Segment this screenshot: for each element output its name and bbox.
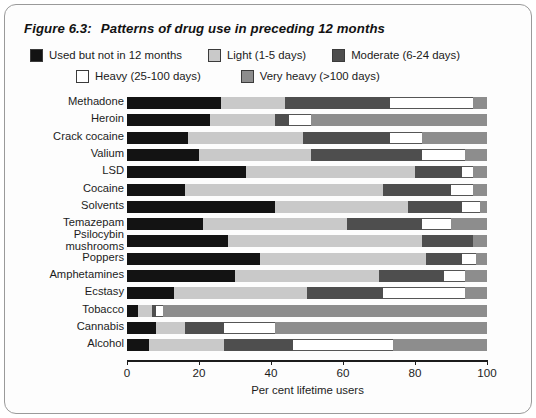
bar-segment-very_heavy	[275, 322, 487, 334]
bar-row	[127, 305, 487, 317]
bar-segment-light	[210, 114, 275, 126]
legend-label-light: Light (1-5 days)	[227, 49, 306, 61]
bar-segment-heavy	[451, 184, 473, 196]
category-label: Poppers	[24, 252, 124, 263]
bar-segment-moderate	[426, 253, 462, 265]
category-label: Crack cocaine	[24, 131, 124, 142]
bar-segment-heavy	[462, 201, 480, 213]
bar-row	[127, 201, 487, 213]
legend-item-very-heavy: Very heavy (>100 days)	[241, 70, 380, 83]
bar-segment-moderate	[408, 201, 462, 213]
bar-row	[127, 149, 487, 161]
bar-segment-used	[127, 166, 246, 178]
x-tick-label: 80	[409, 366, 422, 379]
bar-segment-very_heavy	[311, 114, 487, 126]
legend-item-light: Light (1-5 days)	[208, 49, 306, 62]
bar-segment-heavy	[444, 270, 466, 282]
bar-segment-heavy	[289, 114, 311, 126]
bar-segment-used	[127, 253, 260, 265]
x-axis-title: Per cent lifetime users	[127, 384, 488, 396]
category-label: Heroin	[24, 113, 124, 124]
figure-number: Figure 6.3:	[24, 21, 92, 36]
bar-segment-heavy	[390, 97, 473, 109]
legend-swatch-moderate	[332, 49, 345, 62]
bar-row	[127, 287, 487, 299]
bar-row	[127, 166, 487, 178]
category-label: Temazepam	[24, 217, 124, 228]
bar-segment-very_heavy	[473, 184, 487, 196]
category-label: Alcohol	[24, 338, 124, 349]
bar-segment-heavy	[422, 149, 465, 161]
bar-segment-moderate	[224, 339, 292, 351]
legend-row-top: Used but not in 12 months Light (1-5 day…	[30, 47, 460, 63]
bar-segment-very_heavy	[422, 132, 487, 144]
bar-segment-light	[275, 201, 408, 213]
bar-segment-moderate	[383, 184, 451, 196]
bar-segment-moderate	[285, 97, 389, 109]
bar-segment-used	[127, 270, 235, 282]
chart-legend: Used but not in 12 months Light (1-5 day…	[24, 47, 510, 89]
bar-segment-heavy	[422, 218, 451, 230]
bar-segment-light	[246, 166, 415, 178]
x-tick-label: 100	[477, 366, 496, 379]
bar-segment-used	[127, 97, 221, 109]
bar-segment-moderate	[275, 114, 289, 126]
bar-segment-light	[221, 97, 286, 109]
bar-segment-light	[185, 184, 383, 196]
bar-segment-heavy	[156, 305, 163, 317]
bar-segment-light	[228, 235, 422, 247]
bar-segment-heavy	[462, 166, 473, 178]
bar-segment-very_heavy	[473, 235, 487, 247]
bar-row	[127, 235, 487, 247]
bar-segment-very_heavy	[465, 149, 487, 161]
bar-segment-used	[127, 235, 228, 247]
bar-segment-light	[199, 149, 311, 161]
bar-segment-used	[127, 132, 188, 144]
bar-segment-used	[127, 322, 156, 334]
bar-segment-very_heavy	[465, 270, 487, 282]
legend-item-moderate: Moderate (6-24 days)	[332, 49, 460, 62]
legend-swatch-very-heavy	[241, 70, 254, 83]
bars-area	[127, 95, 487, 357]
legend-row-bottom: Heavy (25-100 days) Very heavy (>100 day…	[76, 68, 380, 84]
bar-row	[127, 184, 487, 196]
x-tick-label: 20	[193, 366, 206, 379]
bar-segment-moderate	[185, 322, 225, 334]
bar-segment-light	[188, 132, 303, 144]
bar-segment-light	[149, 339, 225, 351]
bar-segment-used	[127, 218, 203, 230]
bar-segment-light	[156, 322, 185, 334]
bar-segment-moderate	[347, 218, 423, 230]
bar-segment-light	[138, 305, 152, 317]
bar-segment-very_heavy	[480, 201, 487, 213]
bar-segment-used	[127, 339, 149, 351]
bar-segment-very_heavy	[451, 218, 487, 230]
legend-swatch-used	[30, 49, 43, 62]
x-tick-label: 40	[265, 366, 278, 379]
bar-row	[127, 339, 487, 351]
legend-item-used: Used but not in 12 months	[30, 49, 182, 62]
bar-segment-light	[174, 287, 307, 299]
legend-item-heavy: Heavy (25-100 days)	[76, 70, 201, 83]
bar-segment-heavy	[224, 322, 274, 334]
bar-segment-heavy	[293, 339, 394, 351]
bar-segment-light	[235, 270, 379, 282]
category-axis-labels: MethadoneHeroinCrack cocaineValiumLSDCoc…	[24, 95, 124, 357]
bar-segment-moderate	[379, 270, 444, 282]
bar-row	[127, 97, 487, 109]
bar-segment-used	[127, 287, 174, 299]
legend-swatch-light	[208, 49, 221, 62]
x-tick	[415, 360, 416, 365]
bar-segment-moderate	[422, 235, 472, 247]
x-tick	[271, 360, 272, 365]
bar-segment-light	[260, 253, 426, 265]
bar-row	[127, 132, 487, 144]
bar-segment-used	[127, 149, 199, 161]
bar-segment-used	[127, 184, 185, 196]
bar-segment-moderate	[307, 287, 383, 299]
bar-segment-light	[203, 218, 347, 230]
bar-segment-heavy	[390, 132, 422, 144]
figure-container: Figure 6.3:Patterns of drug use in prece…	[0, 0, 536, 418]
x-tick	[199, 360, 200, 365]
category-label: Ecstasy	[24, 286, 124, 297]
